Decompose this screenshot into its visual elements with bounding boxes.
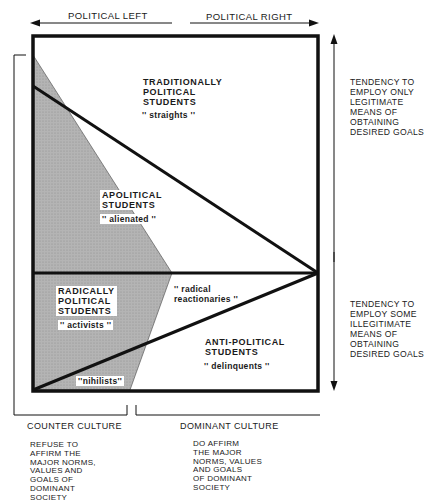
radically-political-title: RADICALLY POLITICAL STUDENTS — [56, 286, 117, 316]
radical-reactionaries-label: '' radical reactionaries '' — [174, 284, 238, 304]
legitimate-means-note: TENDENCY TO EMPLOY ONLY LEGITIMATE MEANS… — [350, 77, 424, 137]
straights-label: '' straights '' — [142, 110, 195, 120]
dominant-culture-bracket — [136, 405, 320, 415]
political-left-label: POLITICAL LEFT — [68, 10, 148, 21]
counter-culture-note: REFUSE TO AFFIRM THE MAJOR NORMS, VALUES… — [30, 441, 96, 503]
counter-culture-label: COUNTER CULTURE — [27, 421, 122, 431]
legitimate-means-arrow — [331, 34, 338, 262]
delinquents-label: '' delinquents '' — [204, 361, 270, 371]
dominant-culture-label: DOMINANT CULTURE — [180, 421, 279, 431]
anti-political-title: ANTI-POLITICAL STUDENTS — [205, 337, 285, 357]
illegitimate-means-note: TENDENCY TO EMPLOY SOME ILLEGITIMATE MEA… — [350, 299, 424, 359]
political-right-label: POLITICAL RIGHT — [206, 11, 292, 22]
alienated-label: '' alienated '' — [100, 214, 158, 224]
nihilists-label: ''nihilists'' — [76, 376, 124, 386]
dominant-culture-note: DO AFFIRM THE MAJOR NORMS, VALUES AND GO… — [193, 440, 262, 493]
illegitimate-means-arrow — [331, 252, 338, 391]
activists-label: '' activists '' — [58, 320, 113, 330]
traditionally-political-title: TRADITIONALLY POLITICAL STUDENTS — [143, 77, 222, 107]
apolitical-title: APOLITICAL STUDENTS — [100, 190, 164, 210]
